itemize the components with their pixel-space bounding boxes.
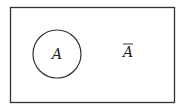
complement-a-label: A	[121, 44, 133, 60]
universal-set-rectangle	[11, 8, 175, 103]
set-a-label: A	[50, 46, 62, 62]
venn-diagram: A A	[0, 0, 181, 108]
